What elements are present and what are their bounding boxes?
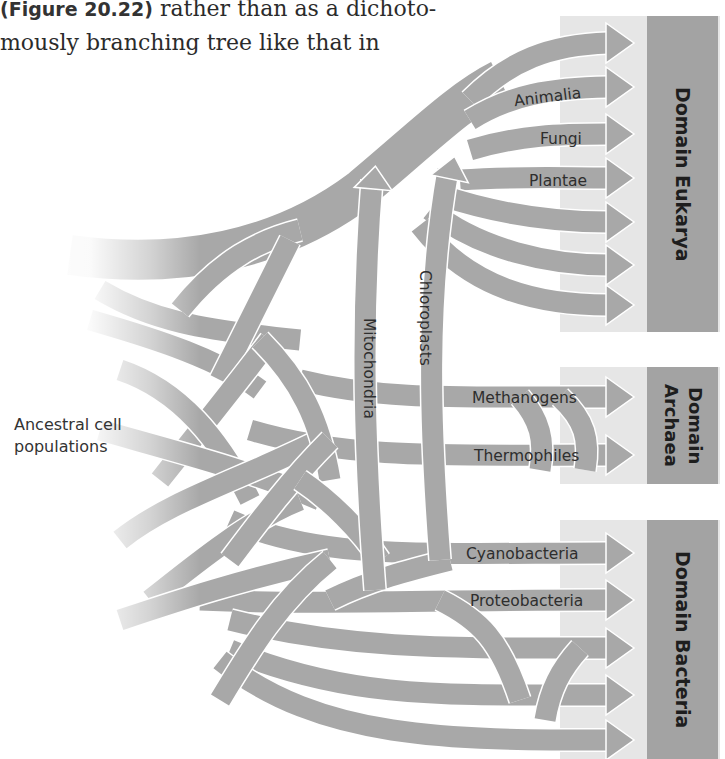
archaea-arrowhead-icon-1 <box>606 435 634 475</box>
archaea-arrowhead-icon-0 <box>606 377 634 417</box>
textbook-page: (Figure 20.22) rather than as a dichoto-… <box>0 0 725 759</box>
lineage-label-thermophiles: Thermophiles <box>473 447 579 465</box>
eukarya-arrowhead-icon-2 <box>606 114 634 154</box>
eukarya-branch-4 <box>440 195 608 222</box>
eukarya-arrowhead-icon-0 <box>606 23 634 63</box>
transfer-label-chloroplasts: Chloroplasts <box>416 270 434 366</box>
ancestral-cell-populations-label: Ancestral cell populations <box>14 414 122 458</box>
ancestral-label-line1: Ancestral cell <box>14 414 122 436</box>
eukarya-arrowhead-icon-6 <box>606 285 634 325</box>
lineage-label-plantae: Plantae <box>529 172 587 190</box>
transfer-label-mitochondria: Mitochondria <box>360 318 378 419</box>
bacteria-arrowhead-icon-2 <box>606 628 634 668</box>
tree-of-life-diagram: Animalia Fungi Plantae Methanogens Therm… <box>0 0 725 759</box>
bacteria-arrowhead-icon-1 <box>606 580 634 620</box>
lineage-label-methanogens: Methanogens <box>472 389 577 407</box>
eukarya-arrowhead-icon-4 <box>606 202 634 242</box>
lineage-label-fungi: Fungi <box>540 130 582 148</box>
eukarya-arrowhead-icon-5 <box>606 245 634 285</box>
eukarya-arrowhead-icon-1 <box>606 67 634 107</box>
lineage-label-cyanobacteria: Cyanobacteria <box>466 545 578 563</box>
ancestral-label-line2: populations <box>14 436 122 458</box>
eukarya-arrowhead-icon-3 <box>606 158 634 198</box>
bacteria-arrowhead-icon-3 <box>606 675 634 715</box>
bacteria-arrowhead-icon-0 <box>606 533 634 573</box>
lineage-label-proteobacteria: Proteobacteria <box>470 592 583 610</box>
bacteria-arrowhead-icon-4 <box>606 720 634 759</box>
